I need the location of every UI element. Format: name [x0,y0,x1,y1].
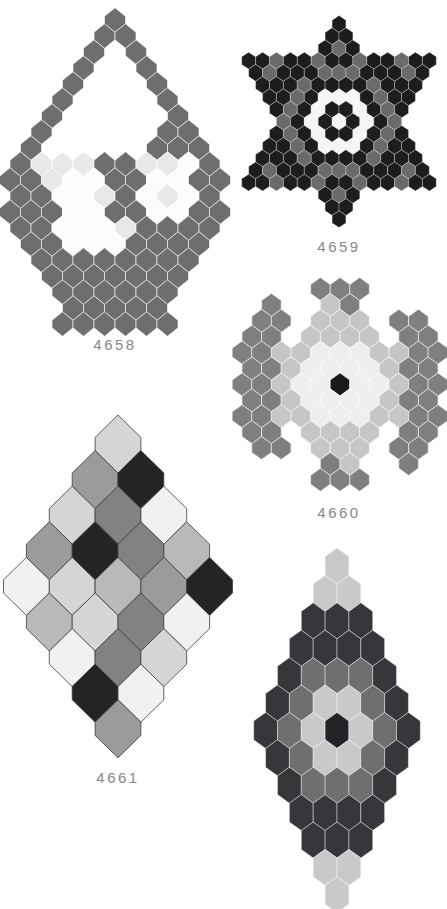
pattern-page: 4658465946604661 [0,0,447,909]
snowflake-4660: 4660 [232,278,447,522]
figure-label: 4660 [317,504,360,521]
figure-label: 4659 [317,238,360,255]
diamond-bottom [254,548,421,909]
star-4659: 4659 [242,16,437,255]
basket-4658: 4658 [0,8,231,353]
figure-label: 4658 [93,336,136,353]
hex-mosaic-canvas: 4658465946604661 [0,0,447,909]
diamond-4661: 4661 [4,415,233,786]
figure-label: 4661 [96,769,139,786]
